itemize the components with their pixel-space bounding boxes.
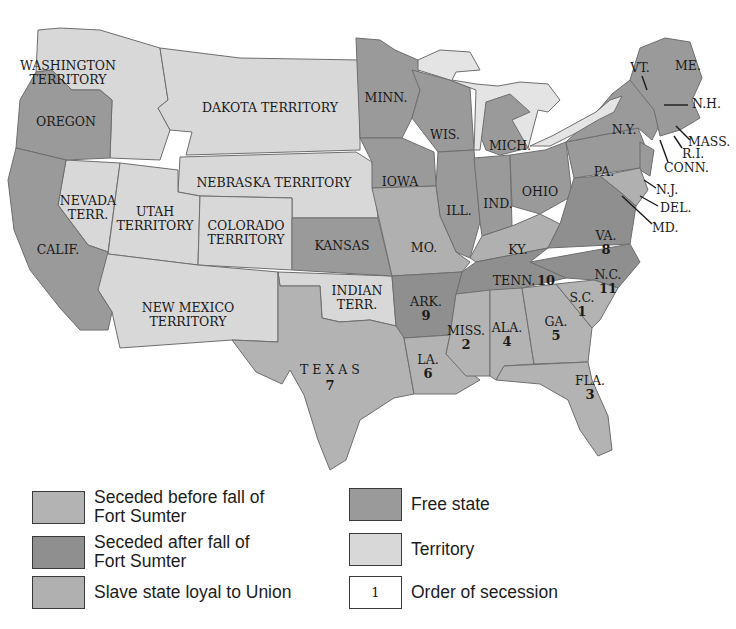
svg-text:OREGON: OREGON [36, 114, 96, 129]
region-new-jersey [640, 142, 654, 176]
svg-text:1: 1 [577, 304, 586, 319]
svg-text:3: 3 [585, 387, 594, 402]
svg-text:MO.: MO. [411, 240, 437, 255]
svg-text:NEW MEXICO: NEW MEXICO [142, 300, 234, 315]
svg-text:TERR.: TERR. [337, 297, 377, 312]
svg-text:IND.: IND. [483, 196, 512, 211]
svg-text:COLORADO: COLORADO [207, 218, 284, 233]
legend-swatch-territory [349, 533, 402, 566]
legend-item-territory: Territory [349, 533, 474, 566]
legend-swatch-seceded-before [32, 491, 85, 524]
legend-swatch-seceded-after [32, 536, 85, 569]
svg-text:DAKOTA TERRITORY: DAKOTA TERRITORY [202, 100, 339, 115]
legend-label: Order of secession [411, 583, 558, 602]
svg-text:2: 2 [461, 337, 470, 352]
svg-text:ME.: ME. [675, 58, 701, 73]
legend-item-seceded-before: Seceded before fall of Fort Sumter [32, 488, 264, 526]
svg-text:6: 6 [423, 366, 432, 381]
svg-text:11: 11 [599, 281, 617, 296]
svg-text:CONN.: CONN. [664, 160, 709, 175]
svg-text:7: 7 [325, 378, 334, 393]
svg-text:TERR.: TERR. [68, 207, 108, 222]
svg-text:LA.: LA. [417, 352, 438, 367]
svg-text:R.I.: R.I. [682, 146, 704, 161]
legend-label: Slave state loyal to Union [94, 583, 291, 602]
svg-text:ARK.: ARK. [409, 294, 442, 309]
svg-text:TERRITORY: TERRITORY [207, 232, 285, 247]
svg-text:10: 10 [537, 273, 555, 288]
svg-text:MICH.: MICH. [489, 138, 531, 153]
svg-text:VT.: VT. [629, 60, 650, 75]
legend-swatch-order: 1 [349, 576, 402, 609]
svg-text:T E X A S: T E X A S [300, 362, 360, 377]
svg-text:4: 4 [502, 334, 511, 349]
legend-swatch-slave-loyal [32, 576, 85, 609]
svg-text:9: 9 [421, 308, 430, 323]
svg-text:CALIF.: CALIF. [37, 242, 80, 257]
svg-text:PA.: PA. [594, 164, 614, 179]
legend-item-seceded-after: Seceded after fall of Fort Sumter [32, 533, 250, 571]
svg-text:KY.: KY. [508, 242, 528, 257]
svg-text:ILL.: ILL. [446, 203, 472, 218]
svg-text:GA.: GA. [545, 314, 568, 329]
svg-text:TENN.: TENN. [493, 273, 536, 288]
svg-text:N.C.: N.C. [594, 267, 621, 282]
legend-label: Territory [411, 540, 474, 559]
svg-text:MD.: MD. [652, 220, 678, 235]
civil-war-us-map: WASHINGTON TERRITORY DAKOTA TERRITORY OR… [0, 0, 736, 480]
svg-text:IOWA: IOWA [382, 174, 419, 189]
svg-text:VA.: VA. [594, 228, 616, 243]
svg-text:OHIO: OHIO [522, 184, 558, 199]
legend-swatch-free-state [349, 488, 402, 521]
svg-text:KANSAS: KANSAS [315, 238, 370, 253]
svg-text:ALA.: ALA. [491, 320, 522, 335]
svg-text:5: 5 [551, 328, 560, 343]
svg-text:TERRITORY: TERRITORY [29, 72, 107, 87]
region-minnesota [356, 38, 420, 138]
legend-label: Seceded before fall of Fort Sumter [94, 488, 264, 526]
legend-label: Seceded after fall of Fort Sumter [94, 533, 250, 571]
svg-text:UTAH: UTAH [136, 204, 174, 219]
legend-item-free-state: Free state [349, 488, 490, 521]
svg-text:NEBRASKA TERRITORY: NEBRASKA TERRITORY [196, 175, 352, 190]
svg-text:N.Y.: N.Y. [612, 122, 637, 137]
svg-text:NEVADA: NEVADA [60, 193, 117, 208]
legend-item-slave-loyal: Slave state loyal to Union [32, 576, 291, 609]
svg-text:INDIAN: INDIAN [332, 283, 383, 298]
svg-text:TERRITORY: TERRITORY [149, 314, 227, 329]
legend-item-order-of-secession: 1 Order of secession [349, 576, 558, 609]
svg-text:MINN.: MINN. [365, 90, 408, 105]
svg-text:TERRITORY: TERRITORY [116, 218, 194, 233]
map-legend: Seceded before fall of Fort Sumter Seced… [0, 480, 736, 629]
svg-text:N.H.: N.H. [692, 96, 721, 111]
legend-label: Free state [411, 495, 490, 514]
svg-text:8: 8 [601, 242, 610, 257]
svg-text:MISS.: MISS. [447, 323, 485, 338]
svg-text:N.J.: N.J. [656, 182, 678, 197]
svg-text:DEL.: DEL. [660, 200, 691, 215]
svg-text:FLA.: FLA. [575, 373, 605, 388]
svg-text:S.C.: S.C. [569, 290, 594, 305]
svg-text:WIS.: WIS. [430, 127, 460, 142]
svg-text:WASHINGTON: WASHINGTON [20, 58, 116, 73]
